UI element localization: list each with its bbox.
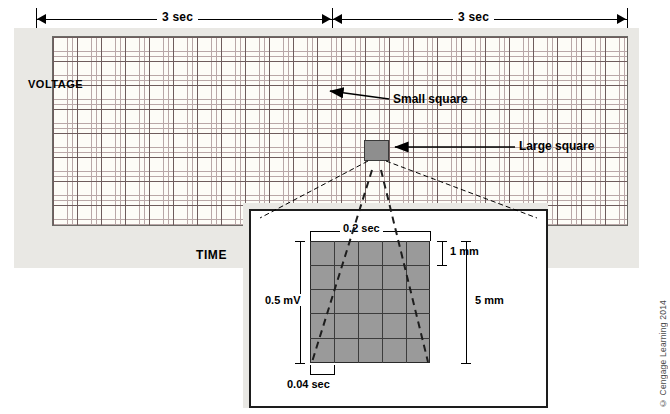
dim-label-02sec: 0.2 sec bbox=[340, 222, 383, 234]
dim-label-004sec: 0.04 sec bbox=[284, 378, 333, 390]
dim-cap-1mm-bottom bbox=[437, 265, 447, 266]
dim-cap-02sec-right bbox=[430, 231, 431, 241]
small-square-callout-label: Small square bbox=[393, 92, 468, 106]
time-measure-bar: 3 sec 3 sec bbox=[36, 8, 628, 30]
time-axis-label: TIME bbox=[196, 248, 227, 262]
ecg-grid-diagram: 3 sec 3 sec VOLTAGE TIME Small square La… bbox=[0, 0, 670, 414]
arrow-left-inner-icon bbox=[333, 14, 342, 24]
dim-line-1mm bbox=[442, 241, 443, 265]
ecg-grid-panel bbox=[52, 36, 628, 226]
dim-cap-004sec-right bbox=[334, 365, 335, 375]
measure-label-left: 3 sec bbox=[157, 10, 198, 24]
dim-label-1mm: 1 mm bbox=[447, 245, 482, 257]
magnified-grid-vline-1 bbox=[334, 241, 335, 363]
dim-cap-05mv-top bbox=[295, 241, 305, 242]
dim-cap-1mm-top bbox=[437, 241, 447, 242]
magnified-large-square bbox=[310, 241, 430, 363]
magnified-grid-hline-4 bbox=[310, 338, 430, 339]
dim-cap-5mm-top bbox=[461, 241, 471, 242]
dim-label-05mv: 0.5 mV bbox=[262, 294, 303, 306]
dim-line-004sec bbox=[310, 374, 334, 375]
dim-cap-004sec-left bbox=[310, 365, 311, 375]
copyright-credit: © Cengage Learning 2014 bbox=[658, 300, 668, 408]
arrow-left-outer-icon bbox=[37, 14, 46, 24]
magnified-grid-vline-2 bbox=[358, 241, 359, 363]
dim-line-5mm bbox=[466, 241, 467, 363]
voltage-axis-label: VOLTAGE bbox=[28, 78, 42, 91]
arrow-right-outer-icon bbox=[617, 14, 626, 24]
measure-tick-right bbox=[627, 8, 628, 30]
highlighted-large-square bbox=[364, 140, 389, 161]
magnified-grid-hline-1 bbox=[310, 265, 430, 266]
magnified-grid-vline-4 bbox=[406, 241, 407, 363]
dim-cap-5mm-bottom bbox=[461, 363, 471, 364]
dim-label-5mm: 5 mm bbox=[472, 294, 507, 306]
arrow-right-inner-icon bbox=[322, 14, 331, 24]
large-square-callout-label: Large square bbox=[519, 139, 594, 153]
magnified-grid-vline-3 bbox=[382, 241, 383, 363]
dim-cap-02sec-left bbox=[310, 231, 311, 241]
magnified-grid-hline-2 bbox=[310, 289, 430, 290]
magnified-grid-hline-3 bbox=[310, 313, 430, 314]
ecg-grid-coarse-lines bbox=[53, 37, 627, 225]
measure-label-right: 3 sec bbox=[453, 10, 494, 24]
dim-cap-05mv-bottom bbox=[295, 363, 305, 364]
